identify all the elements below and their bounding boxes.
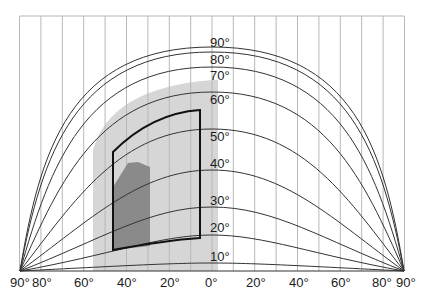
azimuth-label-left-20: 20° [160,276,180,289]
azimuth-label-right-80: 80° [372,276,392,289]
altitude-label-60: 60° [210,93,230,106]
altitude-label-90: 90° [210,36,230,49]
altitude-label-80: 80° [210,53,230,66]
azimuth-label-0: 0° [205,276,217,289]
azimuth-label-left-40: 40° [117,276,137,289]
azimuth-label-right-20: 20° [246,276,266,289]
altitude-label-40: 40° [210,157,230,170]
azimuth-label-right-90: 90° [396,276,416,289]
altitude-label-10: 10° [210,250,230,263]
azimuth-label-right-60: 60° [331,276,351,289]
azimuth-label-left-60: 60° [74,276,94,289]
azimuth-label-left-80: 80° [32,276,52,289]
azimuth-label-right-40: 40° [289,276,309,289]
altitude-label-70: 70° [210,69,230,82]
altitude-label-50: 50° [210,130,230,143]
sun-path-diagram: 90° 80° 70° 60° 50° 40° 30° 20° 10° 90° … [0,0,425,301]
altitude-label-30: 30° [210,194,230,207]
azimuth-label-left-90: 90° [10,276,30,289]
altitude-label-20: 20° [210,221,230,234]
